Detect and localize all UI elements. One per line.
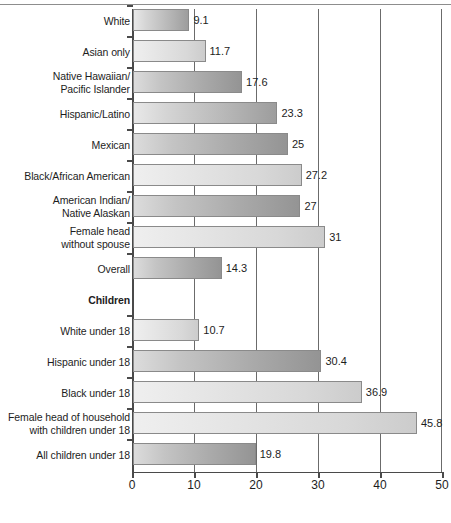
bar-row: American Indian/ Native Alaskan27 xyxy=(0,195,451,226)
bar-row: White under 1810.7 xyxy=(0,319,451,350)
bar xyxy=(133,381,362,403)
bar-value-label: 14.3 xyxy=(226,257,247,279)
y-axis-tick xyxy=(127,253,133,255)
bar-value-label: 10.7 xyxy=(203,319,224,341)
bar-value-label: 19.8 xyxy=(260,443,281,465)
bar xyxy=(133,71,242,93)
bar-rows: White9.1Asian only11.7Native Hawaiian/ P… xyxy=(0,9,451,474)
y-axis-tick xyxy=(127,36,133,38)
bar-value-label: 27.2 xyxy=(306,164,327,186)
bar xyxy=(133,350,321,372)
y-axis-tick xyxy=(127,160,133,162)
x-axis-tick-label: 50 xyxy=(435,478,448,492)
bar-value-label: 23.3 xyxy=(281,102,302,124)
bar-row: Native Hawaiian/ Pacific Islander17.6 xyxy=(0,71,451,102)
category-label: Hispanic/Latino xyxy=(2,108,130,121)
category-label: Asian only xyxy=(2,46,130,59)
bar-value-label: 36.9 xyxy=(366,381,387,403)
bar-chart: White9.1Asian only11.7Native Hawaiian/ P… xyxy=(0,0,451,523)
bar-value-label: 11.7 xyxy=(210,40,231,62)
bar-value-label: 30.4 xyxy=(325,350,346,372)
category-label: Black under 18 xyxy=(2,387,130,400)
bar-value-label: 27 xyxy=(304,195,316,217)
bar-row: White9.1 xyxy=(0,9,451,40)
y-axis-tick xyxy=(127,5,133,7)
category-label: Mexican xyxy=(2,139,130,152)
bar xyxy=(133,102,277,124)
y-axis-tick xyxy=(127,439,133,441)
bar-row: Mexican25 xyxy=(0,133,451,164)
bar-row: Female head without spouse31 xyxy=(0,226,451,257)
bar-row: All children under 1819.8 xyxy=(0,443,451,474)
section-header-label: Children xyxy=(2,294,130,307)
category-label: Female head of household with children u… xyxy=(2,411,130,436)
bar-row: Black under 1836.9 xyxy=(0,381,451,412)
x-axis-tick-label: 0 xyxy=(129,478,136,492)
category-label: Black/African American xyxy=(2,170,130,183)
bar xyxy=(133,257,222,279)
bar xyxy=(133,195,300,217)
bar xyxy=(133,319,199,341)
bar xyxy=(133,164,302,186)
bar-value-label: 31 xyxy=(329,226,341,248)
y-axis-tick xyxy=(127,408,133,410)
category-label: Hispanic under 18 xyxy=(2,356,130,369)
top-divider-rule xyxy=(0,4,451,5)
bar xyxy=(133,443,256,465)
bar xyxy=(133,133,288,155)
section-header-row: Children xyxy=(0,288,451,319)
x-axis-ticks: 01020304050 xyxy=(0,478,451,498)
bar-row: Hispanic/Latino23.3 xyxy=(0,102,451,133)
bar xyxy=(133,412,417,434)
y-axis-tick xyxy=(127,129,133,131)
category-label: White under 18 xyxy=(2,325,130,338)
y-axis-tick xyxy=(127,98,133,100)
bar xyxy=(133,40,206,62)
y-axis-tick xyxy=(127,346,133,348)
category-label: White xyxy=(2,15,130,28)
category-label: Female head without spouse xyxy=(2,225,130,250)
category-label: American Indian/ Native Alaskan xyxy=(2,194,130,219)
bar-value-label: 9.1 xyxy=(193,9,208,31)
category-label: All children under 18 xyxy=(2,449,130,462)
bar-value-label: 17.6 xyxy=(246,71,267,93)
bar xyxy=(133,9,189,31)
bar-row: Female head of household with children u… xyxy=(0,412,451,443)
bar-value-label: 45.8 xyxy=(421,412,442,434)
category-label: Overall xyxy=(2,263,130,276)
y-axis-tick xyxy=(127,377,133,379)
bar-value-label: 25 xyxy=(292,133,304,155)
y-axis-tick xyxy=(127,191,133,193)
bar xyxy=(133,226,325,248)
y-axis-tick xyxy=(127,67,133,69)
bar-row: Asian only11.7 xyxy=(0,40,451,71)
bar-row: Hispanic under 1830.4 xyxy=(0,350,451,381)
y-axis-tick xyxy=(127,222,133,224)
category-label: Native Hawaiian/ Pacific Islander xyxy=(2,70,130,95)
x-axis-tick-label: 10 xyxy=(187,478,200,492)
y-axis-tick xyxy=(127,315,133,317)
x-axis-tick-label: 40 xyxy=(373,478,386,492)
x-axis-tick-label: 20 xyxy=(249,478,262,492)
bar-row: Overall14.3 xyxy=(0,257,451,288)
x-axis-tick-label: 30 xyxy=(311,478,324,492)
bar-row: Black/African American27.2 xyxy=(0,164,451,195)
